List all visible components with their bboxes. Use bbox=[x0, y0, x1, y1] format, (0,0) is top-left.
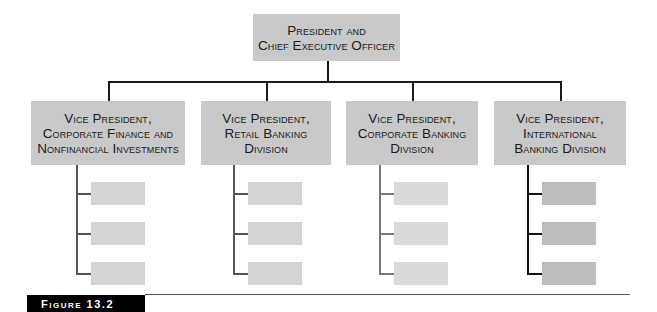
vp-corporate-banking-box: Vice President, Corporate Banking Divisi… bbox=[346, 101, 478, 165]
vp4-connector bbox=[560, 81, 562, 101]
subtree-branch bbox=[233, 193, 248, 195]
sub-unit-box bbox=[394, 182, 448, 205]
subtree-branch bbox=[527, 273, 542, 275]
vp-label: Vice President, Corporate Finance and No… bbox=[37, 111, 179, 156]
subtree-spine bbox=[527, 165, 529, 274]
sub-unit-box bbox=[542, 222, 596, 245]
vp-label: Vice President, Retail Banking Division bbox=[222, 111, 310, 156]
vp3-connector bbox=[412, 81, 414, 101]
ceo-label: President and Chief Executive Officer bbox=[258, 23, 395, 53]
sub-unit-box bbox=[91, 262, 145, 285]
subtree-branch bbox=[76, 193, 91, 195]
sub-unit-box bbox=[248, 262, 302, 285]
vp1-connector bbox=[108, 81, 110, 101]
vp-label: Vice President, Corporate Banking Divisi… bbox=[358, 111, 467, 156]
sub-unit-box bbox=[394, 262, 448, 285]
vp-label: Vice President, International Banking Di… bbox=[514, 111, 606, 156]
vp-international-banking-box: Vice President, International Banking Di… bbox=[494, 101, 626, 165]
sub-unit-box bbox=[248, 222, 302, 245]
subtree-branch bbox=[233, 233, 248, 235]
vp-corporate-finance-box: Vice President, Corporate Finance and No… bbox=[31, 101, 185, 165]
horizontal-connector bbox=[108, 81, 561, 83]
sub-unit-box bbox=[542, 262, 596, 285]
vp2-connector bbox=[266, 81, 268, 101]
subtree-branch bbox=[379, 273, 394, 275]
sub-unit-box bbox=[248, 182, 302, 205]
subtree-branch bbox=[379, 193, 394, 195]
sub-unit-box bbox=[91, 182, 145, 205]
subtree-branch bbox=[76, 273, 91, 275]
subtree-spine bbox=[76, 165, 78, 274]
subtree-branch bbox=[379, 233, 394, 235]
subtree-branch bbox=[76, 233, 91, 235]
root-connector bbox=[327, 61, 329, 81]
vp-retail-banking-box: Vice President, Retail Banking Division bbox=[201, 101, 331, 165]
caption-rule bbox=[145, 294, 630, 295]
ceo-box: President and Chief Executive Officer bbox=[253, 14, 400, 61]
subtree-branch bbox=[527, 233, 542, 235]
subtree-branch bbox=[527, 193, 542, 195]
subtree-branch bbox=[233, 273, 248, 275]
sub-unit-box bbox=[91, 222, 145, 245]
figure-label: Figure 13.2 bbox=[27, 295, 145, 312]
subtree-spine bbox=[233, 165, 235, 274]
sub-unit-box bbox=[394, 222, 448, 245]
subtree-spine bbox=[379, 165, 381, 274]
sub-unit-box bbox=[542, 182, 596, 205]
